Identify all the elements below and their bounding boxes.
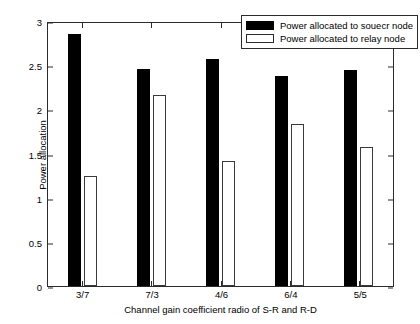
x-tick-mark-top bbox=[221, 23, 222, 28]
y-tick-label: 2 bbox=[37, 107, 42, 117]
plot-area: 0 0.5 1 1.5 2 bbox=[47, 22, 394, 287]
y-tick-mark bbox=[48, 67, 53, 68]
x-tick-label: 4/6 bbox=[215, 290, 228, 300]
y-tick-label: 0 bbox=[37, 283, 42, 293]
y-tick-mark bbox=[48, 23, 53, 24]
bar-relay-5-5 bbox=[360, 147, 374, 286]
y-tick-label: 0.5 bbox=[29, 239, 42, 249]
bar-source-7-3 bbox=[137, 69, 151, 286]
legend-swatch-source-icon bbox=[246, 21, 274, 30]
bar-relay-3-7 bbox=[84, 176, 98, 286]
x-tick-mark-top bbox=[82, 23, 83, 28]
y-tick-mark bbox=[48, 288, 53, 289]
y-tick-label: 1.5 bbox=[29, 151, 42, 161]
y-tick-mark bbox=[48, 199, 53, 200]
y-tick-mark bbox=[48, 155, 53, 156]
bar-relay-7-3 bbox=[153, 95, 167, 286]
legend-item-source: Power allocated to souecr node bbox=[246, 19, 413, 32]
x-tick-mark bbox=[82, 281, 83, 286]
x-tick-label: 7/3 bbox=[145, 290, 158, 300]
y-tick-mark-right bbox=[388, 155, 393, 156]
x-tick-label: 5/5 bbox=[354, 290, 367, 300]
bar-source-5-5 bbox=[344, 70, 358, 286]
x-tick-label: 3/7 bbox=[76, 290, 89, 300]
figure-canvas: Power allocation 0 0.5 1 1.5 bbox=[0, 0, 420, 324]
bar-source-3-7 bbox=[68, 34, 82, 286]
bar-source-4-6 bbox=[206, 59, 220, 286]
legend-label-source: Power allocated to souecr node bbox=[280, 21, 413, 31]
y-tick-mark bbox=[48, 243, 53, 244]
y-tick-mark-right bbox=[388, 199, 393, 200]
legend-swatch-relay-icon bbox=[246, 34, 274, 43]
bar-relay-4-6 bbox=[222, 161, 236, 286]
bar-relay-6-4 bbox=[291, 124, 305, 286]
legend-label-relay: Power allocated to relay node bbox=[280, 34, 405, 44]
y-tick-mark-right bbox=[388, 288, 393, 289]
x-tick-mark-top bbox=[151, 23, 152, 28]
y-tick-mark-right bbox=[388, 67, 393, 68]
y-tick-label: 2.5 bbox=[29, 62, 42, 72]
y-tick-label: 3 bbox=[37, 18, 42, 28]
y-tick-mark-right bbox=[388, 243, 393, 244]
legend-item-relay: Power allocated to relay node bbox=[246, 32, 413, 45]
x-axis-title: Channel gain coefficient radio of S-R an… bbox=[47, 305, 394, 315]
y-tick-mark-right bbox=[388, 111, 393, 112]
y-tick-mark bbox=[48, 111, 53, 112]
bar-source-6-4 bbox=[275, 76, 289, 286]
y-tick-label: 1 bbox=[37, 195, 42, 205]
legend: Power allocated to souecr node Power all… bbox=[241, 15, 418, 49]
x-tick-label: 6/4 bbox=[284, 290, 297, 300]
